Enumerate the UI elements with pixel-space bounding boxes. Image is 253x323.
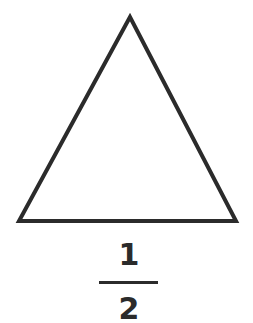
fraction-denominator: 2 (0, 294, 253, 323)
triangle-diagram (0, 0, 253, 323)
triangle-shape (19, 17, 236, 221)
fraction-numerator: 1 (0, 240, 253, 270)
